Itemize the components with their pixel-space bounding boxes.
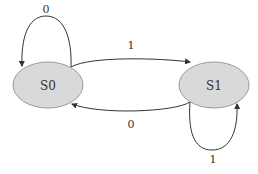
transition-s1-s1: 1 [190,102,238,166]
transition-s1-s0: 0 [72,102,190,131]
state-diagram: 0 1 0 1 S0 S1 [0,0,258,174]
transition-label: 1 [128,39,135,52]
transition-label: 0 [128,118,135,131]
transition-label: 0 [43,3,50,16]
state-s1: S1 [179,62,249,108]
transition-s0-s1: 1 [71,39,190,67]
transition-s0-s0: 0 [22,3,71,67]
state-label: S1 [206,79,222,93]
transition-label: 1 [210,153,217,166]
state-label: S0 [40,79,56,93]
state-s0: S0 [13,62,83,108]
